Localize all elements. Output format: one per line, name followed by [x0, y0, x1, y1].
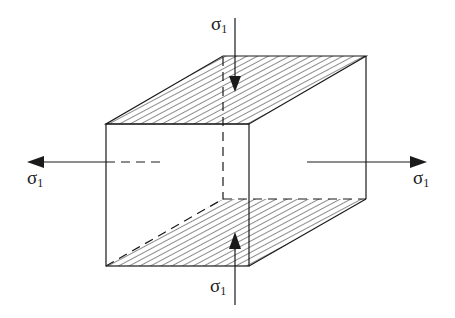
stress-cube-diagram — [0, 0, 455, 318]
top-face — [106, 56, 366, 124]
label-sigma-right: σ1 — [413, 168, 429, 189]
bottom-face — [106, 199, 366, 266]
arrow-left — [27, 156, 106, 168]
arrow-right — [307, 156, 427, 168]
label-sigma-top: σ1 — [211, 14, 227, 35]
label-sigma-bottom: σ1 — [210, 276, 226, 297]
label-sigma-left: σ1 — [27, 168, 43, 189]
